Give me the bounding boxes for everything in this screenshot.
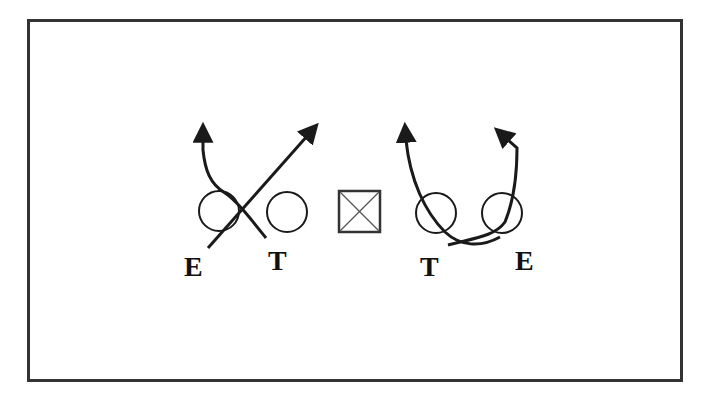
route-left-tackle-arrow bbox=[203, 126, 266, 238]
route-right-tackle-arrow bbox=[405, 126, 500, 244]
label-left-tackle: T bbox=[268, 245, 287, 276]
route-left-end-arrow bbox=[208, 126, 316, 248]
label-right-end: E bbox=[515, 245, 534, 276]
center-marker-icon bbox=[339, 191, 380, 232]
player-circle-left-tackle bbox=[267, 192, 307, 232]
label-right-tackle: T bbox=[420, 251, 439, 282]
player-circle-left-end bbox=[199, 191, 239, 231]
play-diagram: E T T E bbox=[0, 0, 707, 395]
label-left-end: E bbox=[184, 251, 203, 282]
route-right-end-arrow bbox=[448, 130, 517, 245]
